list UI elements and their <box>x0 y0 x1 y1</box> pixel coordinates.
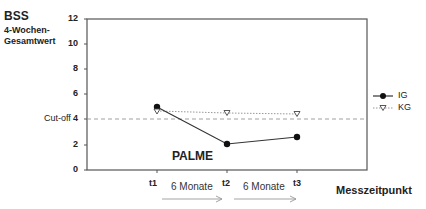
period-arrows <box>162 196 296 202</box>
period-label-1: 6 Monate <box>171 181 213 192</box>
x-axis-title: Messzeitpunkt <box>336 184 412 196</box>
x-tick-t3: t3 <box>293 178 301 188</box>
legend-kg-symbol <box>373 106 393 111</box>
palme-annotation: PALME <box>172 149 213 163</box>
legend-label-kg: KG <box>398 102 411 112</box>
x-tick-t2: t2 <box>222 178 230 188</box>
plot-frame <box>87 19 367 170</box>
x-tick-t1: t1 <box>149 178 157 188</box>
legend-label-ig: IG <box>398 90 408 100</box>
series-kg-markers <box>154 109 300 117</box>
legend-ig-symbol <box>373 93 393 99</box>
period-label-2: 6 Monate <box>243 181 285 192</box>
chart-canvas <box>0 0 426 209</box>
